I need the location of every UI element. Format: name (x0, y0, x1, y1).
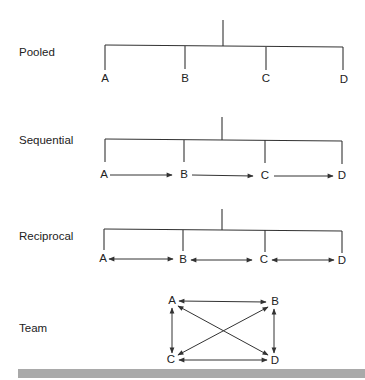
pooled-node-b: B (181, 73, 189, 85)
sequential-node-d: D (338, 170, 346, 182)
footer-bar (18, 369, 365, 378)
reciprocal-node-d: D (338, 255, 346, 267)
pooled-tree (105, 20, 343, 70)
reciprocal-tree (104, 209, 342, 253)
reciprocal-node-a: A (99, 253, 107, 265)
reciprocal-node-c: C (260, 254, 268, 266)
reciprocal-node-b: B (179, 254, 187, 266)
sequential-node-c: C (261, 170, 269, 182)
team-node-d: D (271, 355, 279, 367)
reciprocal-arrows (109, 259, 334, 260)
team-arrows (172, 301, 274, 360)
sequential-arrows (110, 175, 333, 176)
row-label-reciprocal: Reciprocal (19, 231, 73, 243)
row-label-team: Team (19, 323, 47, 335)
row-label-pooled: Pooled (19, 47, 55, 59)
pooled-node-d: D (340, 74, 348, 86)
team-node-b: B (271, 296, 279, 308)
team-node-c: C (167, 354, 175, 366)
pooled-node-a: A (101, 73, 109, 85)
team-node-a: A (168, 295, 176, 307)
sequential-node-a: A (100, 169, 108, 181)
sequential-tree (105, 117, 342, 164)
row-label-sequential: Sequential (19, 135, 73, 147)
pooled-node-c: C (262, 73, 270, 85)
sequential-node-b: B (180, 169, 188, 181)
